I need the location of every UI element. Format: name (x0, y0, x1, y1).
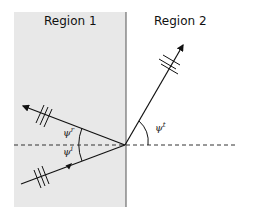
diagram-canvas (0, 0, 256, 223)
angle-reflected-label: ψr (63, 126, 74, 138)
angle-superscript: r (71, 126, 74, 134)
region-1-label: Region 1 (44, 14, 97, 28)
transmitted-wavefront-icon (159, 55, 180, 74)
angle-superscript: i (71, 145, 73, 153)
angle-symbol: ψ (63, 146, 71, 157)
region-2-label: Region 2 (154, 14, 207, 28)
angle-symbol: ψ (155, 122, 163, 133)
angle-incident-label: ψi (63, 145, 73, 157)
transmitted-angle-arc (139, 121, 148, 145)
transmitted-ray (125, 45, 183, 145)
angle-transmitted-label: ψt (155, 121, 166, 133)
angle-symbol: ψ (63, 127, 71, 138)
angle-superscript: t (163, 121, 166, 129)
